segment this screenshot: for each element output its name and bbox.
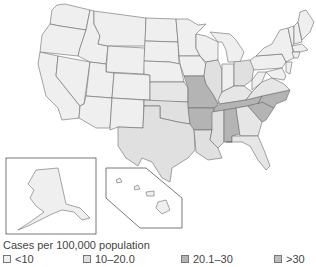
state-pennsylvania — [250, 54, 286, 70]
legend-swatch-lt10 — [3, 255, 11, 263]
legend: Cases per 100,000 population <10 10–20.0… — [3, 239, 316, 266]
state-kansas — [150, 82, 188, 102]
legend-title: Cases per 100,000 population — [3, 239, 316, 252]
state-alaska — [18, 168, 90, 230]
state-colorado — [112, 73, 150, 100]
state-south-dakota — [144, 41, 179, 64]
state-arkansas — [188, 108, 214, 130]
legend-label-20to30: 20.1–30 — [193, 253, 233, 265]
legend-swatch-gt30 — [274, 255, 282, 263]
state-maryland — [266, 68, 286, 80]
state-north-dakota — [145, 18, 178, 42]
state-new-jersey — [286, 62, 292, 74]
us-choropleth-map — [0, 0, 316, 240]
state-iowa — [179, 56, 206, 76]
state-montana — [94, 11, 146, 46]
state-florida — [226, 136, 270, 170]
legend-label-gt30: >30 — [286, 253, 305, 265]
state-wyoming — [106, 46, 145, 74]
legend-item-10to20: 10–20.0 — [83, 253, 135, 265]
state-ohio — [234, 60, 254, 86]
state-nebraska — [144, 61, 184, 82]
legend-label-lt10: <10 — [15, 253, 34, 265]
contiguous-us — [38, 4, 314, 182]
legend-swatch-20to30 — [181, 255, 189, 263]
alaska-inset — [6, 158, 96, 234]
legend-swatch-10to20 — [83, 255, 91, 263]
legend-label-10to20: 10–20.0 — [95, 253, 135, 265]
legend-item-gt30: >30 — [274, 253, 305, 265]
state-massachusetts — [292, 44, 308, 52]
legend-item-20to30: 20.1–30 — [181, 253, 233, 265]
legend-item-lt10: <10 — [3, 253, 34, 265]
state-hawaii — [116, 178, 170, 214]
state-new-mexico — [110, 98, 144, 130]
state-mississippi — [210, 110, 224, 148]
